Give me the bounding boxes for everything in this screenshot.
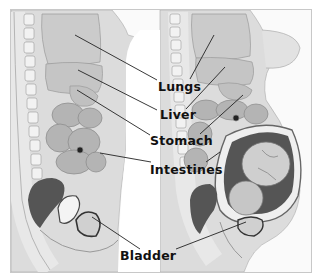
left-lungs <box>42 14 101 65</box>
right-lungs <box>192 14 251 60</box>
right-breast <box>262 30 300 68</box>
fetus-body <box>242 142 290 186</box>
left-bladder <box>76 212 100 236</box>
right-liver <box>195 58 253 86</box>
label-intestines: Intestines <box>150 162 223 177</box>
label-liver: Liver <box>160 107 196 122</box>
fetus-head <box>229 181 263 215</box>
right-uterus-fetus <box>215 125 301 223</box>
label-bladder: Bladder <box>120 248 176 263</box>
label-lungs: Lungs <box>158 79 201 94</box>
label-stomach: Stomach <box>150 133 213 148</box>
right-bladder <box>238 217 263 236</box>
